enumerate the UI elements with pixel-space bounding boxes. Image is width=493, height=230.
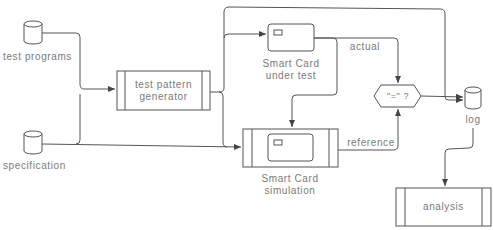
edge-specification-to-simulation [42,144,241,147]
label-analysis: analysis [405,201,482,213]
label-card-under-test-line1: Smart Card [251,58,331,70]
diagram-canvas [0,0,493,230]
edge-compare-to-log [421,96,463,97]
label-test-programs: test programs [3,51,63,63]
label-card-under-test-line2: under test [251,70,331,82]
label-compare: "=" ? [378,90,418,102]
label-log: log [460,114,486,126]
label-actual: actual [345,41,385,53]
label-reference: reference [345,137,397,149]
label-simulation-line2: simulation [250,185,330,197]
database-icon-test-programs [24,21,42,44]
edge-specification-to-generator [76,94,80,144]
edge-generator-to-log [224,7,463,100]
edge-log-to-analysis [445,128,473,186]
label-generator-line1: test pattern [125,79,202,91]
label-specification: specification [3,160,63,172]
database-icon-log [465,87,481,109]
process-box-simulation [243,129,338,167]
edge-generator-to-simulation [210,92,227,147]
smart-card-icon-under-test [268,24,314,51]
label-simulation-line1: Smart Card [250,173,330,185]
database-icon-specification [24,131,42,154]
label-generator-line2: generator [125,91,202,103]
